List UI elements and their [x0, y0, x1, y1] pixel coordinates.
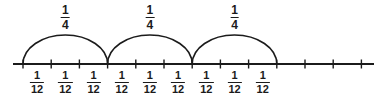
interval-fraction-label: 112 — [256, 70, 270, 95]
fraction-denominator: 12 — [256, 83, 270, 95]
arc-fraction-label: 14 — [230, 4, 239, 31]
fraction-denominator: 12 — [115, 83, 129, 95]
fraction-numerator: 1 — [146, 4, 155, 17]
fraction-numerator: 1 — [89, 70, 97, 82]
fraction-numerator: 1 — [230, 4, 239, 17]
fraction-numerator: 1 — [118, 70, 126, 82]
fraction-denominator: 12 — [30, 83, 44, 95]
interval-fraction-label: 112 — [143, 70, 157, 95]
interval-fraction-label: 112 — [171, 70, 185, 95]
number-line-figure: 141414 112112112112112112112112112 — [0, 0, 387, 99]
fraction-numerator: 1 — [202, 70, 210, 82]
fraction-denominator: 12 — [199, 83, 213, 95]
fraction-numerator: 1 — [61, 4, 70, 17]
fraction-denominator: 12 — [227, 83, 241, 95]
fraction-numerator: 1 — [174, 70, 182, 82]
interval-fraction-label: 112 — [30, 70, 44, 95]
fraction-denominator: 12 — [143, 83, 157, 95]
fraction-numerator: 1 — [230, 70, 238, 82]
fraction-numerator: 1 — [33, 70, 41, 82]
fraction-numerator: 1 — [259, 70, 267, 82]
interval-fraction-label: 112 — [86, 70, 100, 95]
fraction-denominator: 4 — [230, 18, 239, 31]
fraction-numerator: 1 — [146, 70, 154, 82]
interval-fraction-label: 112 — [115, 70, 129, 95]
interval-fraction-label: 112 — [58, 70, 72, 95]
arc-fraction-label: 14 — [61, 4, 70, 31]
interval-fraction-label: 112 — [199, 70, 213, 95]
fraction-numerator: 1 — [61, 70, 69, 82]
fraction-denominator: 12 — [58, 83, 72, 95]
fraction-denominator: 4 — [61, 18, 70, 31]
fraction-denominator: 12 — [86, 83, 100, 95]
arc-fraction-label: 14 — [146, 4, 155, 31]
fraction-denominator: 12 — [171, 83, 185, 95]
label-layer: 141414 112112112112112112112112112 — [0, 0, 387, 99]
interval-fraction-label: 112 — [227, 70, 241, 95]
fraction-denominator: 4 — [146, 18, 155, 31]
